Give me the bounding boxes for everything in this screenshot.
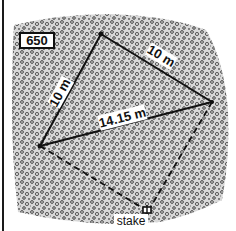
label-stake: stake	[117, 214, 146, 228]
gravel-survey-diagram: 10 m 10 m 14.15 m stake 650	[0, 0, 236, 231]
vertex-left	[38, 144, 43, 149]
figure-id-label: 650	[19, 32, 55, 49]
vertex-right	[210, 100, 214, 104]
vertex-top	[99, 32, 104, 37]
